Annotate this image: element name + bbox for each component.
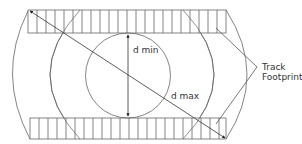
bottom-track-footprint <box>30 118 226 139</box>
top-track-footprint <box>28 10 226 33</box>
track-footprint-leader <box>216 28 257 124</box>
track-footprint-label-line1: Track <box>262 62 302 72</box>
d-min-label: d min <box>133 46 159 55</box>
turning-diameter-diagram <box>0 0 302 144</box>
track-footprint-label: Track Footprint <box>262 62 302 82</box>
track-footprint-label-line2: Footprint <box>262 72 302 82</box>
d-max-label: d max <box>171 92 199 101</box>
